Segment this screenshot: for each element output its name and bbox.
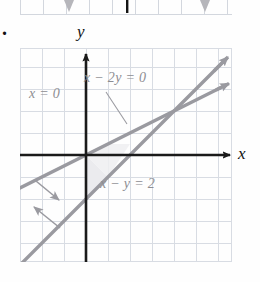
equation-label-x-minus-y-equals-2: x − y = 2	[100, 176, 155, 192]
line-x-minus-y-arrowhead	[214, 57, 228, 71]
equation-label-x-equals-0: x = 0	[29, 86, 60, 102]
y-axis-label: y	[77, 22, 85, 42]
figure-container: .	[0, 0, 260, 282]
x-axis-label: x	[238, 144, 246, 164]
shading-arrow-up-left	[34, 207, 60, 228]
label-pointer-x-minus-2y	[106, 92, 127, 124]
coordinate-graph	[0, 0, 260, 282]
equation-label-x-minus-2y-equals-0: x − 2y = 0	[84, 70, 146, 86]
shading-arrow-down-right	[36, 181, 59, 200]
